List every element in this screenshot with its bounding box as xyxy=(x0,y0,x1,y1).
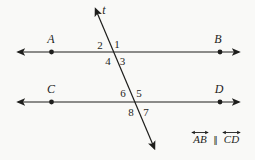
statement-ab-label: AB xyxy=(192,133,207,145)
statement-cd-label: CD xyxy=(224,133,239,145)
angle-6-label: 6 xyxy=(120,87,126,99)
point-d-dot xyxy=(218,100,223,105)
angle-3-label: 3 xyxy=(120,55,126,67)
transversal-line xyxy=(96,9,155,149)
diagram-canvas: A B C D t 1 2 3 4 5 6 7 8 AB ∥ CD xyxy=(0,0,255,160)
angle-8-label: 8 xyxy=(128,106,134,118)
point-b-label: B xyxy=(214,32,222,46)
point-a-dot xyxy=(49,50,54,55)
point-c-dot xyxy=(49,100,54,105)
parallel-lines-transversal-diagram: A B C D t 1 2 3 4 5 6 7 8 AB ∥ CD xyxy=(0,0,255,160)
point-c-label: C xyxy=(47,82,56,96)
angle-1-label: 1 xyxy=(114,38,120,50)
angle-5-label: 5 xyxy=(136,87,142,99)
parallel-symbol: ∥ xyxy=(213,135,218,145)
point-a-label: A xyxy=(46,32,55,46)
transversal-label: t xyxy=(102,3,106,17)
point-b-dot xyxy=(218,50,223,55)
angle-2-label: 2 xyxy=(97,39,103,51)
point-d-label: D xyxy=(214,82,224,96)
angle-4-label: 4 xyxy=(105,55,111,67)
angle-7-label: 7 xyxy=(143,106,149,118)
